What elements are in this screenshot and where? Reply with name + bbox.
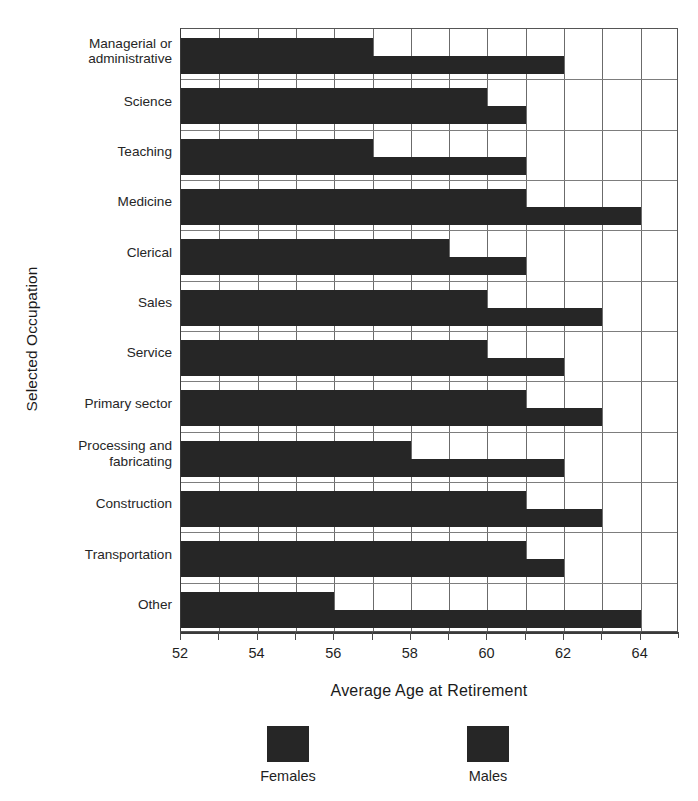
bar-females-4 — [181, 239, 449, 257]
x-tick-54 — [257, 632, 258, 640]
x-axis-title: Average Age at Retirement — [180, 682, 678, 700]
legend-entry-males: Males — [428, 726, 548, 784]
x-tick-label-56: 56 — [303, 645, 363, 661]
bar-females-10 — [181, 541, 526, 559]
category-label-line: Science — [0, 94, 172, 110]
x-tick-label-52: 52 — [150, 645, 210, 661]
category-label-4: Clerical — [0, 245, 172, 261]
x-axis-line — [180, 632, 679, 634]
category-label-line: Primary sector — [0, 396, 172, 412]
x-tick-label-58: 58 — [380, 645, 440, 661]
category-label-line: Clerical — [0, 245, 172, 261]
category-label-line: fabricating — [0, 454, 172, 470]
bar-males-0 — [181, 56, 564, 74]
category-label-3: Medicine — [0, 194, 172, 210]
bar-males-4 — [181, 257, 526, 275]
bar-males-1 — [181, 106, 526, 124]
bar-females-9 — [181, 491, 526, 509]
vertical-gridline — [641, 29, 642, 631]
category-label-2: Teaching — [0, 144, 172, 160]
category-label-1: Science — [0, 94, 172, 110]
category-label-line: Teaching — [0, 144, 172, 160]
group-separator-line — [181, 532, 677, 533]
bar-females-5 — [181, 290, 487, 308]
chart-legend: FemalesMales — [0, 726, 698, 801]
y-axis-category-labels: Managerial oradministrativeScienceTeachi… — [0, 28, 172, 632]
x-tick-55 — [295, 632, 296, 640]
category-label-line: Processing and — [0, 438, 172, 454]
bar-females-11 — [181, 592, 334, 610]
group-separator-line — [181, 281, 677, 282]
group-separator-line — [181, 381, 677, 382]
category-label-line: administrative — [0, 51, 172, 67]
x-tick-60 — [486, 632, 487, 640]
x-tick-57 — [372, 632, 373, 640]
x-tick-62 — [563, 632, 564, 640]
category-label-line: Managerial or — [0, 36, 172, 52]
group-separator-line — [181, 331, 677, 332]
bar-males-5 — [181, 308, 602, 326]
x-tick-label-62: 62 — [533, 645, 593, 661]
bar-females-6 — [181, 340, 487, 358]
bar-females-8 — [181, 441, 411, 459]
x-tick-53 — [218, 632, 219, 640]
bar-males-7 — [181, 408, 602, 426]
category-label-line: Service — [0, 345, 172, 361]
category-label-line: Medicine — [0, 194, 172, 210]
bar-males-8 — [181, 459, 564, 477]
group-separator-line — [181, 180, 677, 181]
bar-females-1 — [181, 88, 487, 106]
legend-label-females: Females — [228, 768, 348, 784]
bar-females-3 — [181, 189, 526, 207]
bar-males-11 — [181, 610, 641, 628]
bar-males-6 — [181, 358, 564, 376]
category-label-line: Transportation — [0, 547, 172, 563]
x-tick-end — [678, 632, 679, 638]
legend-swatch-males — [467, 726, 509, 762]
legend-entry-females: Females — [228, 726, 348, 784]
legend-label-males: Males — [428, 768, 548, 784]
vertical-gridline — [602, 29, 603, 631]
x-tick-59 — [448, 632, 449, 640]
category-label-0: Managerial oradministrative — [0, 36, 172, 67]
bar-males-2 — [181, 157, 526, 175]
group-separator-line — [181, 130, 677, 131]
x-tick-label-64: 64 — [610, 645, 670, 661]
bar-females-0 — [181, 38, 373, 56]
group-separator-line — [181, 482, 677, 483]
vertical-gridline — [526, 29, 527, 631]
bar-females-2 — [181, 139, 373, 157]
group-separator-line — [181, 230, 677, 231]
vertical-gridline — [564, 29, 565, 631]
x-tick-52 — [180, 632, 181, 640]
x-tick-64 — [640, 632, 641, 640]
retirement-age-bar-chart: Selected Occupation Managerial oradminis… — [0, 0, 698, 801]
group-separator-line — [181, 79, 677, 80]
category-label-line: Other — [0, 597, 172, 613]
bar-females-7 — [181, 390, 526, 408]
bar-males-9 — [181, 509, 602, 527]
category-label-10: Transportation — [0, 547, 172, 563]
legend-swatch-females — [267, 726, 309, 762]
group-separator-line — [181, 432, 677, 433]
x-tick-label-54: 54 — [227, 645, 287, 661]
category-label-7: Primary sector — [0, 396, 172, 412]
category-label-11: Other — [0, 597, 172, 613]
plot-area — [180, 28, 678, 632]
x-tick-58 — [410, 632, 411, 640]
category-label-line: Sales — [0, 295, 172, 311]
category-label-6: Service — [0, 345, 172, 361]
category-label-9: Construction — [0, 496, 172, 512]
x-tick-label-60: 60 — [456, 645, 516, 661]
x-tick-56 — [333, 632, 334, 640]
bar-males-10 — [181, 559, 564, 577]
category-label-8: Processing andfabricating — [0, 438, 172, 469]
category-label-line: Construction — [0, 496, 172, 512]
bar-males-3 — [181, 207, 641, 225]
x-tick-63 — [601, 632, 602, 640]
group-separator-line — [181, 583, 677, 584]
category-label-5: Sales — [0, 295, 172, 311]
x-tick-61 — [525, 632, 526, 640]
